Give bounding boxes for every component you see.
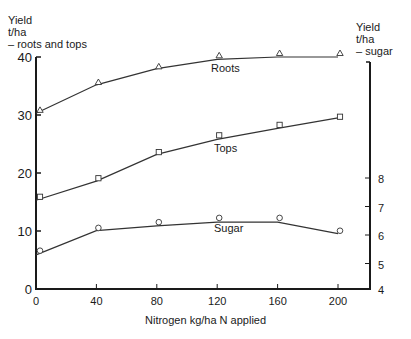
circle-marker xyxy=(337,228,343,234)
square-marker xyxy=(217,133,222,138)
right-y-tick-label: 4 xyxy=(378,284,384,296)
line-chart: 0102030400408012016020045678 RootsTopsSu… xyxy=(0,0,411,339)
square-marker xyxy=(156,150,161,155)
circle-marker xyxy=(277,215,283,221)
x-tick-label: 200 xyxy=(329,295,347,307)
series-line xyxy=(36,222,338,255)
left-y-tick-label: 30 xyxy=(18,108,32,123)
left-y-tick-label: 20 xyxy=(18,166,32,181)
circle-marker xyxy=(96,225,102,231)
square-marker xyxy=(337,114,342,119)
circle-marker xyxy=(156,219,162,225)
right-y-tick-label: 7 xyxy=(378,202,384,214)
triangle-marker xyxy=(337,50,343,56)
series-line xyxy=(36,57,338,113)
series-line xyxy=(36,118,338,200)
circle-marker xyxy=(216,215,222,221)
x-tick-label: 160 xyxy=(268,295,286,307)
axes: 0102030400408012016020045678 xyxy=(18,50,385,307)
left-y-tick-label: 0 xyxy=(25,282,32,297)
series-label-tops: Tops xyxy=(214,142,238,154)
right-y-tick-label: 5 xyxy=(378,259,384,271)
series-group: RootsTopsSugar xyxy=(36,50,343,255)
square-marker xyxy=(96,176,101,181)
x-tick-label: 40 xyxy=(90,295,102,307)
series-roots: Roots xyxy=(36,50,343,113)
right-y-tick-label: 6 xyxy=(378,230,384,242)
series-tops: Tops xyxy=(36,114,343,200)
series-label-roots: Roots xyxy=(211,62,240,74)
series-sugar: Sugar xyxy=(36,215,343,255)
left-y-tick-label: 10 xyxy=(18,224,32,239)
x-tick-label: 80 xyxy=(151,295,163,307)
circle-marker xyxy=(37,248,43,254)
triangle-marker xyxy=(276,50,282,56)
series-label-sugar: Sugar xyxy=(214,222,244,234)
triangle-marker xyxy=(95,79,101,85)
x-tick-label: 120 xyxy=(208,295,226,307)
square-marker xyxy=(37,194,42,199)
left-y-tick-label: 40 xyxy=(18,50,32,65)
right-y-tick-label: 8 xyxy=(378,173,384,185)
triangle-marker xyxy=(156,63,162,69)
x-axis-label: Nitrogen kg/ha N applied xyxy=(145,314,266,326)
x-tick-label: 0 xyxy=(33,295,39,307)
triangle-marker xyxy=(216,52,222,58)
square-marker xyxy=(277,122,282,127)
triangle-marker xyxy=(37,107,43,113)
